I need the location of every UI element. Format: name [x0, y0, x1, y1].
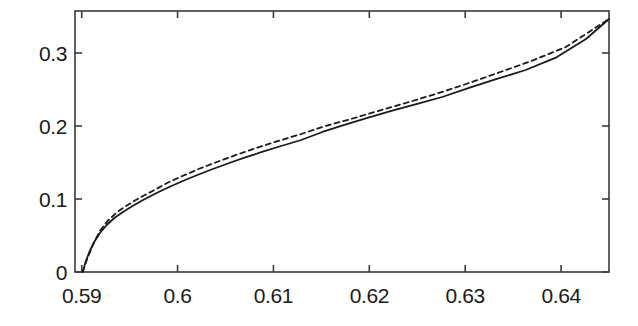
- x-tick-label-5: 0.64: [541, 285, 580, 306]
- series-dashed-curve: [83, 19, 609, 272]
- y-tick-label-1: 0.1: [39, 188, 67, 209]
- axes-box: [75, 11, 609, 272]
- x-tick-label-2: 0.61: [254, 285, 293, 306]
- series-solid-curve: [83, 19, 609, 272]
- y-tick-label-2: 0.2: [39, 115, 67, 136]
- x-tick-label-3: 0.62: [350, 285, 389, 306]
- plot-area: [0, 0, 638, 326]
- x-tick-label-4: 0.63: [446, 285, 485, 306]
- figure-canvas: 0.590.60.610.620.630.64 00.10.20.3: [0, 0, 638, 326]
- x-tick-label-0: 0.59: [62, 285, 101, 306]
- y-tick-label-0: 0: [56, 262, 67, 283]
- data-series-group: [83, 19, 609, 272]
- x-tick-label-1: 0.6: [164, 285, 192, 306]
- axis-ticks: [75, 11, 609, 272]
- y-tick-label-3: 0.3: [39, 42, 67, 63]
- axes-frame: [75, 11, 609, 272]
